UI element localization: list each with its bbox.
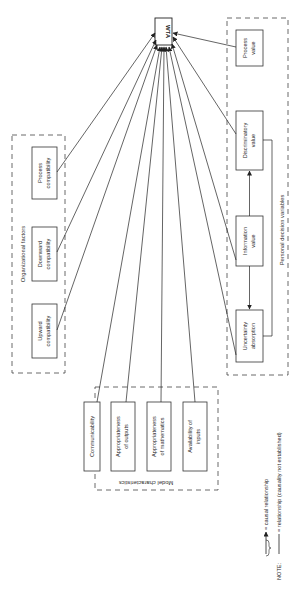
process-compatibility-line2: compatibility xyxy=(45,157,51,188)
uncertainty-absorption-line2: absorption xyxy=(250,323,256,349)
communicability-label: Communicability xyxy=(89,416,95,457)
appropriateness-outputs-line2: of outputs xyxy=(123,424,129,449)
availability-inputs-line2: inputs xyxy=(195,429,201,444)
causal-arrows xyxy=(57,33,236,402)
discriminatory-value-line1: Discriminatory xyxy=(242,123,248,159)
downward-compatibility-line2: compatibility xyxy=(45,238,51,269)
process-compatibility-line1: Process xyxy=(37,163,43,183)
model-characteristics-title: Model characteristics xyxy=(119,480,174,486)
personal-decision-variables-title: Personal decision variables xyxy=(279,195,285,266)
process-value-line2: value xyxy=(250,41,256,54)
downward-compatibility-line1: Downward xyxy=(37,241,43,267)
legend-causal-label: = causal relationship xyxy=(263,479,269,530)
availability-inputs-line1: Availability of xyxy=(187,420,193,453)
upward-compatibility-line2: compatibility xyxy=(45,315,51,346)
upward-compatibility-line1: Upward xyxy=(37,321,43,340)
process-value-line1: Process xyxy=(242,38,248,58)
discriminatory-value-line2: value xyxy=(250,134,256,147)
organizational-factors-title: Organizational factors xyxy=(20,226,26,282)
information-value-line1: Information xyxy=(242,227,248,255)
legend-brace xyxy=(266,540,271,556)
wta-label: WTA xyxy=(165,25,171,39)
legend-relationship-label: = relationship (causality not establishe… xyxy=(276,432,282,532)
information-value-line2: value xyxy=(250,234,256,247)
appropriateness-mathematics-line1: Appropriateness xyxy=(151,416,157,457)
diagram-canvas: WTA Process compatibility Downward compa… xyxy=(0,0,303,604)
legend: NOTE: = causal relationship = relationsh… xyxy=(263,432,282,580)
appropriateness-outputs-line1: Appropriateness xyxy=(115,416,121,457)
note-label: NOTE: xyxy=(276,562,282,580)
uncertainty-absorption-line1: Uncertainty xyxy=(242,322,248,350)
discriminatory-uncertainty-relationship xyxy=(263,140,272,336)
appropriateness-mathematics-line2: of mathematics xyxy=(159,417,165,455)
